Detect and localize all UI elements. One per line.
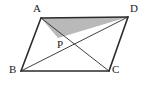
geometry-canvas (0, 0, 147, 87)
vertex-label-b: B (9, 64, 16, 75)
geometry-figure: A B C D P (0, 0, 147, 87)
vertex-label-c: C (112, 64, 119, 75)
side-DA (41, 17, 128, 18)
shaded-triangle-APD (41, 17, 128, 38)
side-AB (21, 18, 41, 71)
vertex-label-a: A (33, 3, 41, 14)
vertex-label-d: D (130, 3, 138, 14)
vertex-label-p: P (57, 39, 63, 50)
